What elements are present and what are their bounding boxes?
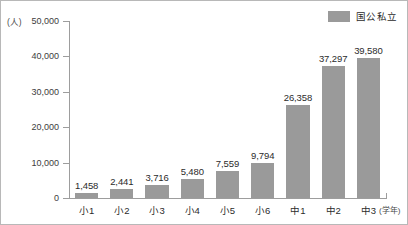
x-axis-category-label: 小6 bbox=[245, 203, 280, 217]
legend-swatch-kokukoshiritsu bbox=[328, 11, 350, 22]
bar-group[interactable]: 2,441 bbox=[110, 21, 133, 198]
bar-group[interactable]: 5,480 bbox=[181, 21, 204, 198]
x-axis-unit-label: (学年) bbox=[379, 204, 400, 215]
y-axis-tick-label: 10,000 bbox=[31, 158, 59, 168]
bar-rect[interactable] bbox=[357, 58, 380, 198]
bar-value-label: 26,358 bbox=[284, 92, 312, 103]
x-axis-category-label: 小5 bbox=[210, 203, 245, 217]
y-axis-tick-label: 30,000 bbox=[31, 87, 59, 97]
bar-value-label: 37,297 bbox=[319, 53, 347, 64]
bar-value-label: 2,441 bbox=[110, 176, 133, 187]
bar-group[interactable]: 37,297 bbox=[322, 21, 345, 198]
bar-value-label: 3,716 bbox=[145, 172, 168, 183]
x-axis-category-label: 小3 bbox=[139, 203, 174, 217]
bar-group[interactable]: 39,580 bbox=[357, 21, 380, 198]
plot-area: 1,4582,4413,7165,4807,5599,79426,35837,2… bbox=[69, 21, 386, 198]
bar-rect[interactable] bbox=[110, 189, 133, 198]
y-axis-tick-label: 0 bbox=[54, 193, 59, 203]
x-axis-end-tick bbox=[386, 193, 387, 199]
x-axis-category-label: 小4 bbox=[175, 203, 210, 217]
x-axis-category-label: 中2 bbox=[316, 203, 351, 217]
bar-rect[interactable] bbox=[75, 193, 98, 198]
y-axis-tick-label: 20,000 bbox=[31, 122, 59, 132]
y-axis-unit-label: (人) bbox=[7, 15, 22, 27]
bar-rect[interactable] bbox=[322, 66, 345, 198]
bar-value-label: 39,580 bbox=[354, 45, 382, 56]
bar-value-label: 9,794 bbox=[251, 150, 274, 161]
bar-rect[interactable] bbox=[251, 163, 274, 198]
x-axis-line bbox=[69, 198, 387, 199]
y-axis-tick-label: 40,000 bbox=[31, 51, 59, 61]
bar-rect[interactable] bbox=[181, 179, 204, 198]
bar-rect[interactable] bbox=[216, 171, 239, 198]
bar-chart-figure: 国公私立 (人) 010,00020,00030,00040,00050,000… bbox=[0, 0, 408, 225]
x-axis-category-label: 中1 bbox=[280, 203, 315, 217]
bar-rect[interactable] bbox=[286, 105, 309, 198]
y-axis-tick-label: 50,000 bbox=[31, 16, 59, 26]
bar-group[interactable]: 26,358 bbox=[286, 21, 309, 198]
bar-value-label: 5,480 bbox=[181, 166, 204, 177]
bar-group[interactable]: 9,794 bbox=[251, 21, 274, 198]
x-axis-category-label: 小1 bbox=[69, 203, 104, 217]
x-axis-category-label: 小2 bbox=[104, 203, 139, 217]
bar-group[interactable]: 1,458 bbox=[75, 21, 98, 198]
bar-value-label: 1,458 bbox=[75, 180, 98, 191]
bar-group[interactable]: 3,716 bbox=[145, 21, 168, 198]
bar-value-label: 7,559 bbox=[216, 158, 239, 169]
bar-group[interactable]: 7,559 bbox=[216, 21, 239, 198]
bar-rect[interactable] bbox=[145, 185, 168, 198]
y-axis-tick bbox=[63, 198, 69, 199]
